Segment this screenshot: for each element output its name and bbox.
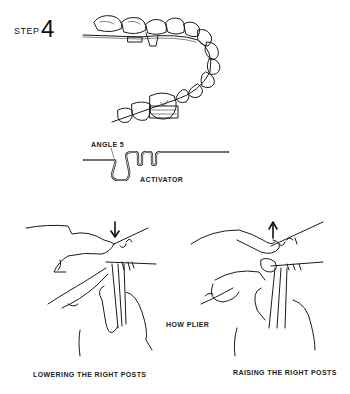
hands-plier-raising-illustration bbox=[175, 200, 350, 360]
caption-lowering: LOWERING THE RIGHT POSTS bbox=[33, 371, 146, 378]
archwire-loop-illustration bbox=[0, 130, 350, 200]
activator-label: ACTIVATOR bbox=[140, 176, 183, 183]
caption-raising: RAISING THE RIGHT POSTS bbox=[233, 369, 337, 376]
hands-plier-lowering-illustration bbox=[0, 200, 175, 360]
dental-arch-illustration bbox=[0, 0, 350, 130]
how-plier-label: HOW PLIER bbox=[166, 321, 209, 328]
angle-label: ANGLE 5 bbox=[91, 141, 124, 148]
